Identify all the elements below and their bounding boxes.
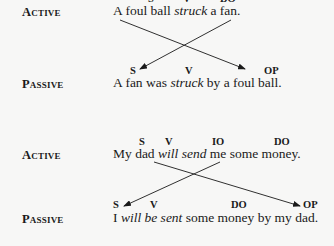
arrow-subject-to-op-2 [154, 162, 300, 206]
arrow-io-to-subject-2 [124, 162, 220, 206]
transformation-arrows [0, 0, 334, 246]
arrow-subject-to-op-1 [120, 20, 245, 69]
arrow-do-to-subject-1 [140, 20, 231, 69]
